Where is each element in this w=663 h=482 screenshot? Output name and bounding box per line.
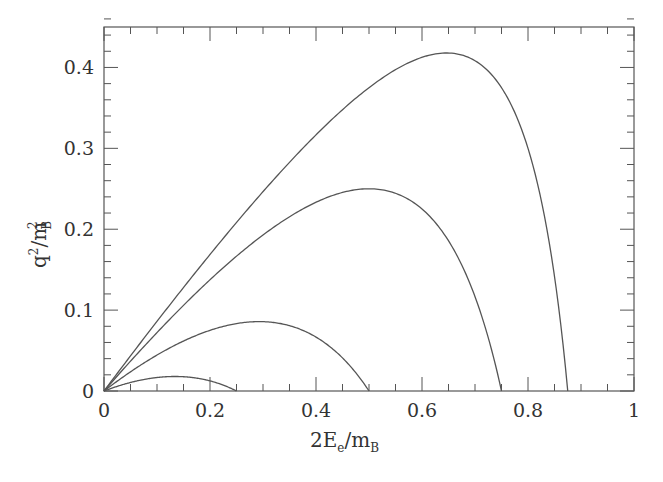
x-tick-label: 0.2	[195, 399, 225, 421]
boundary-curve-1	[104, 53, 568, 391]
y-tick-label: 0.2	[64, 218, 94, 240]
x-axis-label: 2Ee/mB	[310, 428, 379, 455]
boundary-curve-4	[104, 376, 237, 391]
chart: 00.20.40.60.8100.10.20.30.4 2Ee/mB q2/mB…	[0, 0, 663, 482]
x-tick-label: 0.4	[301, 399, 331, 421]
plot-frame	[104, 27, 634, 391]
x-tick-label: 0.6	[407, 399, 437, 421]
boundary-curve-3	[104, 322, 369, 391]
axis-ticks	[104, 19, 634, 391]
plot-curves	[104, 53, 568, 391]
y-tick-label: 0.4	[64, 56, 94, 78]
tick-labels: 00.20.40.60.8100.10.20.30.4	[64, 56, 640, 421]
boundary-curve-2	[104, 189, 502, 391]
y-axis-label: q2/mB2	[26, 221, 54, 268]
y-tick-label: 0.3	[64, 137, 94, 159]
y-tick-label: 0	[82, 380, 94, 402]
x-tick-label: 1	[628, 399, 640, 421]
x-tick-label: 0	[98, 399, 110, 421]
y-tick-label: 0.1	[64, 299, 94, 321]
x-tick-label: 0.8	[513, 399, 543, 421]
